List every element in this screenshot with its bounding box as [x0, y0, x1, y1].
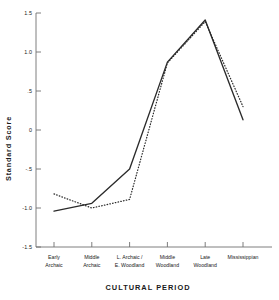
y-tick-label: 1.0 [10, 49, 32, 55]
series-line-solid-series [54, 20, 243, 211]
y-tick-marks [36, 13, 41, 247]
y-tick-label: -.5 [10, 166, 32, 172]
y-tick-label: .5 [10, 88, 32, 94]
x-tick-label: Mississippian [213, 254, 273, 262]
chart-figure: Standard Score 1.51.0.50-.5-1.0-1.5 Earl… [0, 0, 279, 300]
x-tick-label-line: Woodland [175, 262, 235, 270]
x-tick-marks [54, 242, 243, 247]
y-tick-label: 1.5 [10, 10, 32, 16]
y-tick-label: -1.5 [10, 244, 32, 250]
y-tick-label: -1.0 [10, 205, 32, 211]
x-axis-title: CULTURAL PERIOD [48, 283, 248, 292]
y-tick-label: 0 [10, 127, 32, 133]
x-tick-label-line: Mississippian [213, 254, 273, 262]
data-series-group [54, 20, 243, 211]
axes-group [36, 13, 272, 247]
